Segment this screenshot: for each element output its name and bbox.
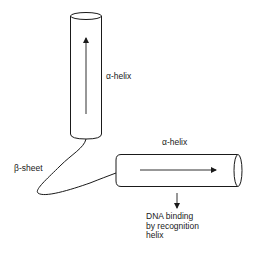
horizontal-helix-left-cap <box>116 155 121 187</box>
beta-sheet-label: β-sheet <box>14 163 43 173</box>
vertical-helix-label: α-helix <box>106 71 131 81</box>
horizontal-helix-label: α-helix <box>162 137 187 147</box>
vertical-helix-bottom-cap <box>71 134 102 139</box>
horizontal-helix-right-cap <box>234 155 242 187</box>
dna-binding-annotation: DNA binding by recognition helix <box>146 212 199 241</box>
horizontal-helix-cylinder <box>116 155 242 187</box>
vertical-helix-top-cap <box>71 13 102 20</box>
dna-binding-line-3: helix <box>146 231 199 241</box>
beta-sheet-connector <box>37 139 116 195</box>
helix-turn-helix-diagram <box>0 0 254 254</box>
